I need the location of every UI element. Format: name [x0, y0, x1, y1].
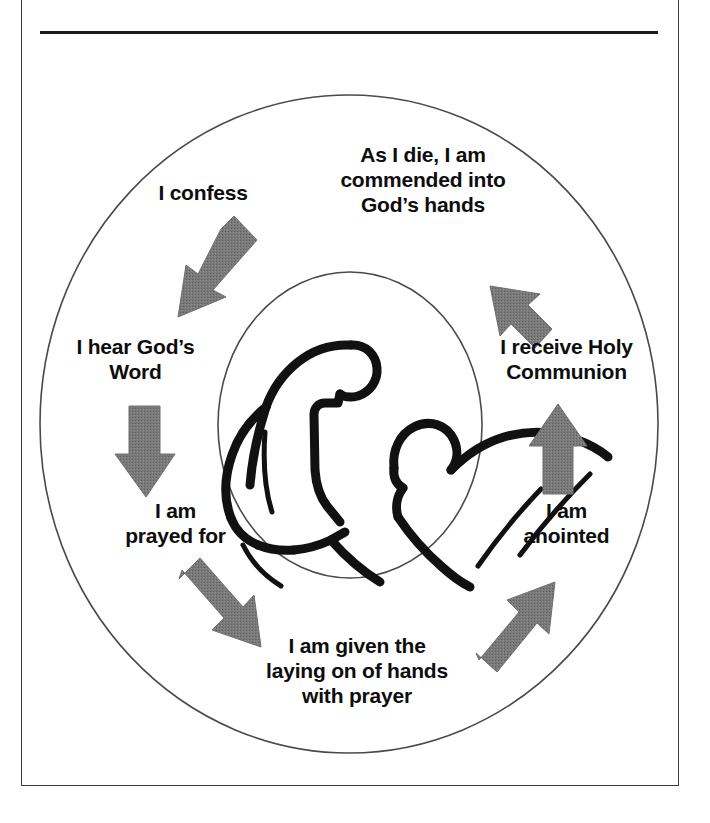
cycle-label-hear-word: I hear God’s Word: [48, 334, 223, 384]
cycle-label-communion: I receive Holy Communion: [474, 334, 659, 384]
top-horizontal-rule: [40, 31, 658, 34]
cycle-label-confess: I confess: [118, 180, 288, 205]
page-canvas: I confess As I die, I am commended into …: [0, 0, 710, 823]
cycle-label-commended: As I die, I am commended into God’s hand…: [318, 142, 528, 217]
cycle-label-anointed: I am anointed: [484, 498, 649, 548]
cycle-label-laying-on-of-hands: I am given the laying on of hands with p…: [246, 633, 468, 708]
cycle-label-prayed-for: I am prayed for: [88, 498, 263, 548]
